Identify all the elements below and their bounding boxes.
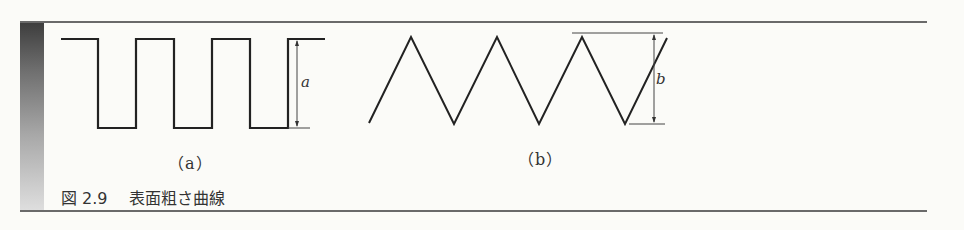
figure-2-9: a b （a） （b） 図 2.9 表面粗さ曲線 [0,0,964,230]
dimension-label-b: b [656,70,666,88]
caption-number: 図 2.9 [61,189,108,208]
panel-label-a: （a） [168,150,213,174]
dimension-label-a: a [301,73,310,91]
triangle-wave-panel-b [369,33,667,124]
figure-caption: 図 2.9 表面粗さ曲線 [61,185,225,209]
bottom-rule [20,210,927,212]
square-wave-panel-a [61,39,325,128]
panel-label-b: （b） [518,146,563,170]
caption-title: 表面粗さ曲線 [129,189,225,208]
